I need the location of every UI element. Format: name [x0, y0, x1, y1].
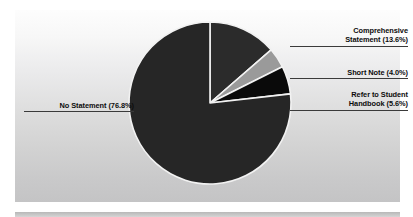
label-comprehensive-statement: Comprehensive Statement (13.6%): [290, 26, 408, 44]
leader-line-refer-to-student-handbook: [290, 110, 408, 111]
label-refer-to-student-handbook-line1: Refer to Student: [290, 90, 408, 99]
label-short-note: Short Note (4.0%): [290, 68, 408, 77]
label-comprehensive-statement-line2: Statement (13.6%): [290, 35, 408, 44]
label-refer-to-student-handbook-line2: Handbook (5.6%): [290, 99, 408, 108]
label-comprehensive-statement-line1: Comprehensive: [290, 26, 408, 35]
label-no-statement: No Statement (76.8%): [24, 101, 134, 110]
label-refer-to-student-handbook: Refer to Student Handbook (5.6%): [290, 90, 408, 108]
leader-line-comprehensive-statement: [290, 46, 408, 47]
bottom-separator-band: [15, 212, 400, 217]
label-short-note-line1: Short Note (4.0%): [290, 68, 408, 77]
leader-line-no-statement: [24, 111, 134, 112]
leader-line-short-note: [290, 78, 408, 79]
pie-chart-figure: Comprehensive Statement (13.6%) Short No…: [0, 0, 413, 217]
label-no-statement-line1: No Statement (76.8%): [24, 101, 134, 110]
